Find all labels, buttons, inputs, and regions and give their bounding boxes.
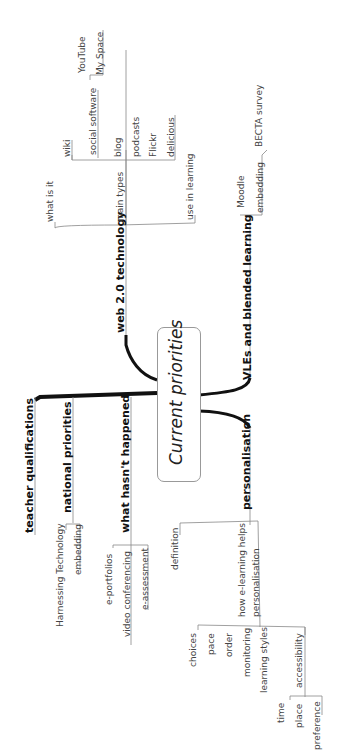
- node-definition[interactable]: definition: [170, 528, 181, 570]
- node-video-conferencing[interactable]: video conferencing: [122, 551, 133, 637]
- node-preference[interactable]: preference: [312, 701, 323, 750]
- node-harnessing-technology[interactable]: Harnessing Technology: [55, 523, 66, 627]
- node-blog[interactable]: blog: [113, 138, 124, 157]
- node-flickr[interactable]: Flickr: [148, 133, 159, 157]
- node-vles-embedding[interactable]: embedding: [255, 162, 266, 213]
- node-how-e-learning-helps[interactable]: how e-learning helps: [237, 523, 248, 617]
- node-myspace[interactable]: My Space: [95, 32, 106, 75]
- node-wiki[interactable]: wiki: [62, 139, 73, 157]
- node-what-is-it[interactable]: what is it: [45, 181, 56, 222]
- node-web20[interactable]: web 2.0 technology: [114, 212, 127, 333]
- node-place[interactable]: place: [294, 704, 305, 728]
- node-becta-survey[interactable]: BECTA survey: [254, 85, 265, 147]
- node-teacher-qualifications[interactable]: teacher qualifications: [23, 398, 36, 533]
- node-pace[interactable]: pace: [206, 633, 217, 655]
- central-node-label: Current priorities: [166, 320, 186, 465]
- node-e-portfolios[interactable]: e-portfolios: [104, 554, 115, 605]
- node-delicious[interactable]: delicious: [166, 117, 177, 157]
- node-national-priorities[interactable]: national priorities: [61, 401, 74, 513]
- node-learning-styles[interactable]: learning styles: [259, 627, 270, 693]
- node-use-in-learning[interactable]: use in learning: [185, 153, 196, 220]
- node-time[interactable]: time: [276, 703, 287, 723]
- node-e-assessment[interactable]: e-assessment: [140, 548, 151, 610]
- node-podcasts[interactable]: podcasts: [131, 117, 142, 157]
- node-vles[interactable]: VLEs and blended learning: [241, 214, 254, 380]
- mind-map-canvas: Current priorities web 2.0 technology wh…: [0, 0, 346, 753]
- node-national-embedding[interactable]: embedding: [73, 524, 84, 575]
- node-social-software[interactable]: social software: [88, 88, 99, 155]
- node-what-hasnt-happened[interactable]: what hasn't happened: [119, 395, 132, 533]
- node-accessibility[interactable]: accessibility: [294, 633, 305, 688]
- node-personalisation[interactable]: personalisation: [240, 414, 253, 510]
- node-how-e-learning-helps-line2[interactable]: personalisation: [251, 548, 262, 617]
- node-moodle[interactable]: Moodle: [236, 175, 247, 208]
- node-youtube[interactable]: YouTube: [77, 36, 88, 73]
- node-order[interactable]: order: [224, 633, 235, 657]
- node-monitoring[interactable]: monitoring: [242, 628, 253, 677]
- node-main-types[interactable]: main types: [115, 172, 126, 222]
- node-choices[interactable]: choices: [188, 633, 199, 667]
